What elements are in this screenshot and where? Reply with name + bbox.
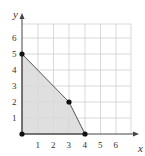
x-tick: 3 bbox=[67, 140, 72, 150]
y-axis-label: y bbox=[12, 8, 18, 20]
vertex-point-0-0 bbox=[19, 131, 24, 136]
y-tick: 2 bbox=[12, 97, 17, 107]
x-axis-label: x bbox=[137, 142, 143, 154]
y-tick: 5 bbox=[12, 49, 17, 59]
y-tick-labels: 1 2 3 4 5 6 bbox=[12, 33, 17, 123]
x-tick: 5 bbox=[98, 140, 103, 150]
x-tick: 4 bbox=[83, 140, 88, 150]
x-tick: 6 bbox=[114, 140, 119, 150]
vertex-point-0-5 bbox=[19, 51, 24, 56]
x-axis-arrow-icon bbox=[133, 132, 139, 137]
x-tick: 1 bbox=[36, 140, 41, 150]
y-tick: 1 bbox=[12, 113, 17, 123]
x-tick: 2 bbox=[51, 140, 56, 150]
x-tick-labels: 1 2 3 4 5 6 bbox=[36, 140, 119, 150]
y-tick: 4 bbox=[12, 65, 17, 75]
y-tick: 3 bbox=[12, 81, 17, 91]
vertex-point-4-0 bbox=[82, 131, 87, 136]
y-tick: 6 bbox=[12, 33, 17, 43]
y-axis-arrow-icon bbox=[20, 13, 25, 19]
feasible-region-chart: x y 1 2 3 4 5 6 1 2 3 4 5 6 bbox=[0, 0, 145, 156]
vertex-point-3-2 bbox=[66, 99, 71, 104]
